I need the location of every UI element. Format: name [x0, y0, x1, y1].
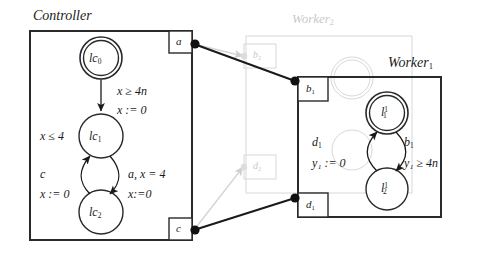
connector-dot-port-a	[190, 39, 199, 48]
connector-dot-port-d1	[290, 193, 299, 202]
state-l12-label: l12	[381, 182, 387, 195]
worker1-port-d1-label: d1	[306, 199, 315, 212]
state-l11-label: l11	[381, 106, 387, 119]
connector-c-d2-faded	[194, 167, 243, 230]
controller-title: Controller	[33, 9, 92, 23]
controller-port-a-label: a	[176, 36, 182, 47]
connector-dot-port-b1	[290, 76, 299, 85]
connector-c-d1	[194, 198, 295, 230]
edge-l12-l11-guard: d1	[312, 136, 322, 149]
worker2-faded-port-b2-label: b2	[253, 50, 261, 61]
worker1-port-b1-label: b1	[306, 83, 315, 96]
controller-invariant: x ≤ 4	[40, 130, 64, 142]
edge-lc2-lc1-guard: c	[40, 168, 45, 180]
connector-dot-port-c	[190, 225, 199, 234]
edge-lc0-lc1-guard: x ≥ 4n	[117, 85, 147, 97]
edge-lc2-lc1-update: x := 0	[40, 188, 69, 200]
connector-dot-port-b2-faded	[241, 53, 247, 59]
state-lc0-label: lc0	[89, 52, 101, 65]
edge-l12-l11-update: y₁ := 0	[312, 157, 346, 169]
worker2-faded-title: Worker2	[292, 12, 334, 27]
state-lc1-label: lc1	[89, 130, 101, 143]
edge-l11-l12-update: y₁ ≥ 4n	[404, 157, 438, 169]
diagram-canvas: Worker2 b2 d2 Controller a c lc0 lc1 lc2…	[0, 0, 477, 267]
connector-dot-port-d2-faded	[241, 164, 247, 170]
edge-lc1-lc2-guard: a, x = 4	[128, 168, 165, 180]
controller-port-c-label: c	[176, 223, 181, 234]
edge-lc1-lc2-update: x:=0	[128, 188, 151, 200]
state-lc2-label: lc2	[89, 206, 101, 219]
edge-lc2-lc1	[81, 156, 90, 194]
edge-lc1-lc2	[110, 156, 119, 194]
diagram-vector-layer	[0, 0, 477, 267]
worker1-title: Worker1	[388, 56, 433, 71]
edge-lc0-lc1-update: x := 0	[117, 104, 146, 116]
edge-l11-l12-guard: b1	[404, 136, 414, 149]
worker2-faded-port-d2-label: d2	[253, 161, 261, 172]
